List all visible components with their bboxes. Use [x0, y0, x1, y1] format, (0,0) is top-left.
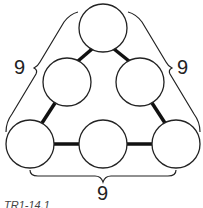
figure-caption: TR1-14.1: [4, 199, 50, 208]
circle-mid-right[interactable]: [116, 58, 164, 106]
circle-bottom-mid[interactable]: [79, 120, 127, 168]
right-sum-label: 9: [177, 57, 188, 77]
circle-bottom-right[interactable]: [152, 120, 200, 168]
circle-mid-left[interactable]: [43, 58, 91, 106]
triangle-diagram: [0, 0, 203, 208]
bottom-sum-label: 9: [97, 183, 108, 203]
circle-bottom-left[interactable]: [6, 120, 54, 168]
brace-bottom: [30, 170, 176, 182]
circle-top[interactable]: [79, 4, 127, 52]
left-sum-label: 9: [14, 57, 25, 77]
circles: [6, 4, 200, 168]
